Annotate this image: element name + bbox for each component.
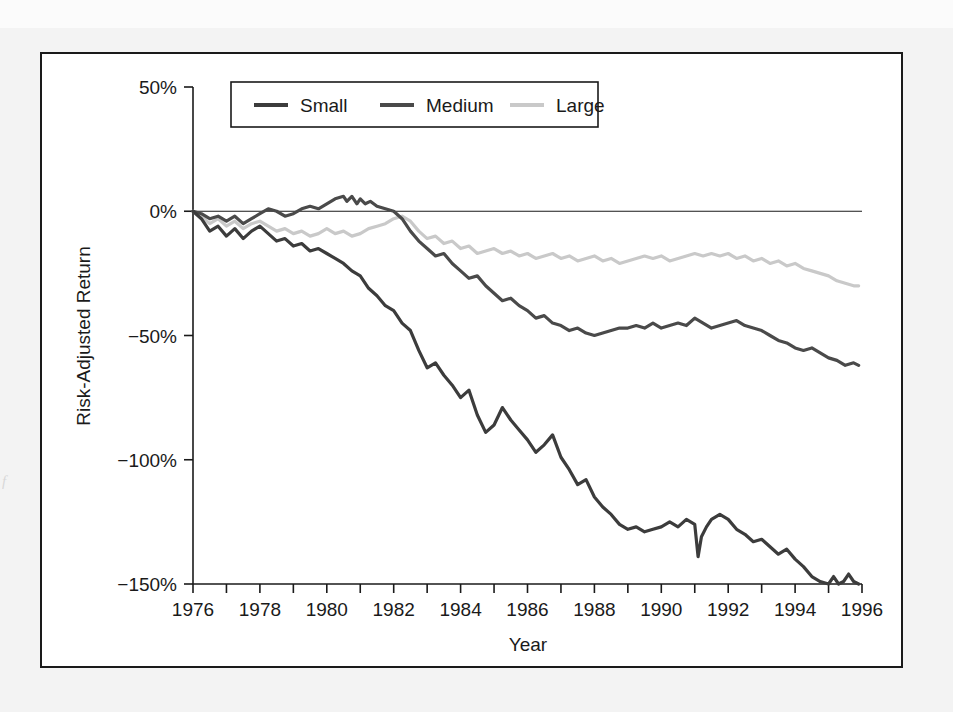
legend-label-small: Small [300,95,348,116]
chart-legend: SmallMediumLarge [231,82,605,127]
chart-axes [193,87,862,584]
series-line-small [193,211,859,584]
page-background: f 50%0%−50%−100%−150% 197619781980198219… [0,0,953,712]
y-tick-label: −100% [117,450,177,471]
x-tick-label: 1976 [172,599,214,620]
legend-label-medium: Medium [426,95,494,116]
x-axis-ticks: 1976197819801982198419861988199019921994… [172,584,883,620]
margin-note: f [2,470,28,610]
x-tick-label: 1986 [506,599,548,620]
figure-frame: 50%0%−50%−100%−150% 19761978198019821984… [40,52,903,668]
x-tick-label: 1992 [707,599,749,620]
y-axis-label: Risk-Adjusted Return [73,246,94,426]
legend-label-large: Large [556,95,605,116]
x-tick-label: 1984 [439,599,482,620]
x-axis-label: Year [509,634,548,655]
series-line-large [193,211,859,286]
y-tick-label: 0% [150,201,178,222]
y-tick-label: −50% [128,326,177,347]
y-tick-label: −150% [117,574,177,595]
series-line-medium [193,196,859,365]
line-chart: 50%0%−50%−100%−150% 19761978198019821984… [42,54,901,666]
x-tick-label: 1978 [239,599,281,620]
x-tick-label: 1988 [573,599,615,620]
y-axis-ticks: 50%0%−50%−100%−150% [117,77,193,595]
x-tick-label: 1996 [841,599,883,620]
chart-series-group [193,196,859,584]
x-tick-label: 1982 [373,599,415,620]
x-tick-label: 1990 [640,599,682,620]
x-tick-label: 1980 [306,599,348,620]
y-tick-label: 50% [139,77,177,98]
x-tick-label: 1994 [774,599,817,620]
